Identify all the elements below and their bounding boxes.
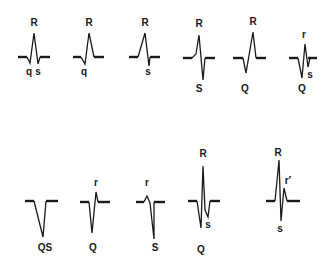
qrs-complex-qs: QS bbox=[25, 201, 58, 253]
qrs-waveform bbox=[138, 33, 150, 66]
qrs-complex-rs: Rs bbox=[129, 17, 160, 77]
wave-label: r′ bbox=[285, 175, 292, 186]
wave-label: R bbox=[249, 16, 257, 27]
wave-label: R bbox=[141, 17, 149, 28]
qrs-complex-rs: rS bbox=[136, 177, 165, 253]
wave-label: s bbox=[145, 66, 151, 77]
qrs-waveform bbox=[243, 32, 256, 73]
qrs-morphology-diagram: RqsRqRsRSRQrsQQSrQrSRsQRr′s bbox=[0, 0, 327, 268]
wave-label: q bbox=[81, 66, 87, 77]
wave-label: Q bbox=[197, 244, 205, 255]
qrs-waveform bbox=[27, 33, 40, 64]
qrs-complex-rs: RS bbox=[183, 18, 215, 94]
wave-label: R bbox=[85, 17, 93, 28]
wave-label: s bbox=[205, 219, 211, 230]
qrs-waveform bbox=[192, 35, 205, 80]
wave-label: s bbox=[277, 223, 283, 234]
wave-label: R bbox=[274, 147, 282, 158]
wave-label: q bbox=[26, 66, 32, 77]
qrs-complex-rsr-: Rr′s bbox=[266, 147, 300, 234]
qrs-complex-qrs: Rqs bbox=[18, 17, 50, 77]
qrs-waveform bbox=[144, 196, 154, 239]
wave-label: Q bbox=[241, 83, 249, 94]
wave-label: s bbox=[307, 69, 313, 80]
wave-label: s bbox=[35, 66, 41, 77]
complexes-layer: RqsRqRsRSRQrsQQSrQrSRsQRr′s bbox=[18, 16, 317, 255]
wave-label: R bbox=[199, 148, 207, 159]
wave-label: r bbox=[94, 177, 98, 188]
wave-label: S bbox=[152, 242, 159, 253]
wave-label: Q bbox=[298, 83, 306, 94]
qrs-complex-qr: RQ bbox=[233, 16, 266, 94]
qrs-waveform bbox=[89, 192, 98, 233]
qrs-waveform bbox=[81, 33, 94, 64]
wave-label: S bbox=[196, 83, 203, 94]
qrs-complex-qr: rQ bbox=[80, 177, 110, 253]
wave-label: QS bbox=[38, 242, 53, 253]
wave-label: r bbox=[145, 177, 149, 188]
wave-label: R bbox=[195, 18, 203, 29]
wave-label: Q bbox=[89, 242, 97, 253]
wave-label: R bbox=[30, 17, 38, 28]
qrs-complex-qr: Rq bbox=[73, 17, 104, 77]
wave-label: r bbox=[302, 29, 306, 40]
qrs-complex-qrs: RsQ bbox=[188, 148, 220, 255]
qrs-waveform bbox=[275, 160, 287, 221]
qrs-complex-qrs: rsQ bbox=[289, 29, 317, 94]
qrs-waveform bbox=[34, 201, 46, 237]
